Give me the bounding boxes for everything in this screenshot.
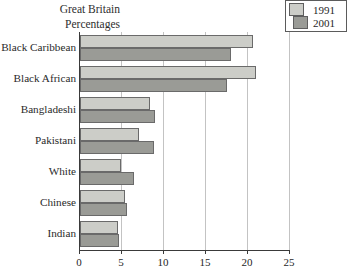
tick-mark-10: [163, 250, 164, 254]
bar-white-1991: [80, 159, 121, 172]
category-label-black-african: Black African: [0, 72, 76, 84]
legend-label-1991: 1991: [313, 4, 335, 16]
tick-mark-20: [247, 250, 248, 254]
x-tick-label-25: 25: [274, 256, 304, 268]
legend-swatch-1991: [289, 3, 304, 16]
category-label-white: White: [0, 165, 76, 177]
category-label-indian: Indian: [0, 227, 76, 239]
x-tick-label-15: 15: [190, 256, 220, 268]
x-tick-label-10: 10: [148, 256, 178, 268]
x-tick-label-20: 20: [232, 256, 262, 268]
x-axis-line: [79, 250, 290, 251]
plot-area: 0510152025: [79, 32, 289, 250]
legend-label-2001: 2001: [313, 17, 335, 29]
x-tick-label-5: 5: [106, 256, 136, 268]
tick-mark-15: [205, 250, 206, 254]
legend-item-1991: 1991: [289, 3, 335, 16]
bar-black-african-1991: [80, 66, 256, 79]
bar-chinese-2001: [80, 203, 127, 216]
bar-indian-1991: [80, 221, 118, 234]
chart-title-line-1: Great Britain: [8, 2, 120, 17]
bar-bangladeshi-2001: [80, 110, 155, 123]
bar-pakistani-2001: [80, 141, 154, 154]
category-label-chinese: Chinese: [0, 196, 76, 208]
gridline-25: [289, 32, 290, 250]
category-label-black-caribbean: Black Caribbean: [0, 41, 76, 53]
bar-pakistani-1991: [80, 128, 139, 141]
bar-white-2001: [80, 172, 134, 185]
tick-mark-5: [121, 250, 122, 254]
chart-title-line-2: Percentages: [8, 17, 120, 32]
bar-black-caribbean-2001: [80, 48, 231, 61]
bar-bangladeshi-1991: [80, 97, 150, 110]
gridline-20: [247, 32, 248, 250]
gridline-15: [205, 32, 206, 250]
chart-legend: 1991 2001: [285, 0, 347, 32]
legend-item-2001: 2001: [293, 16, 335, 29]
x-tick-label-0: 0: [64, 256, 94, 268]
category-label-pakistani: Pakistani: [0, 134, 76, 146]
bar-black-caribbean-1991: [80, 35, 253, 48]
bar-chinese-1991: [80, 190, 125, 203]
legend-swatch-2001: [293, 16, 308, 29]
bar-indian-2001: [80, 234, 119, 247]
tick-mark-25: [289, 250, 290, 254]
tick-mark-0: [79, 250, 80, 254]
category-label-bangladeshi: Bangladeshi: [0, 103, 76, 115]
gridline-10: [163, 32, 164, 250]
chart-title: Great Britain Percentages: [8, 2, 120, 32]
bar-black-african-2001: [80, 79, 227, 92]
